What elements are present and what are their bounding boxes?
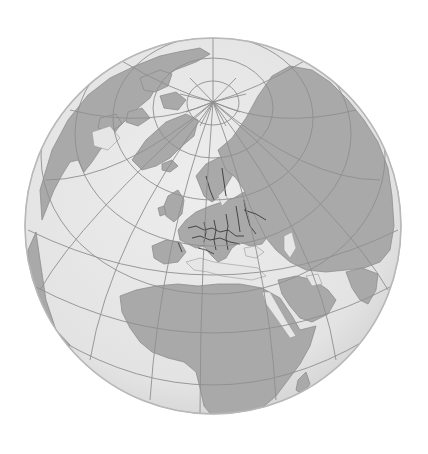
- globe-map: [0, 0, 428, 454]
- globe-svg: [0, 0, 428, 454]
